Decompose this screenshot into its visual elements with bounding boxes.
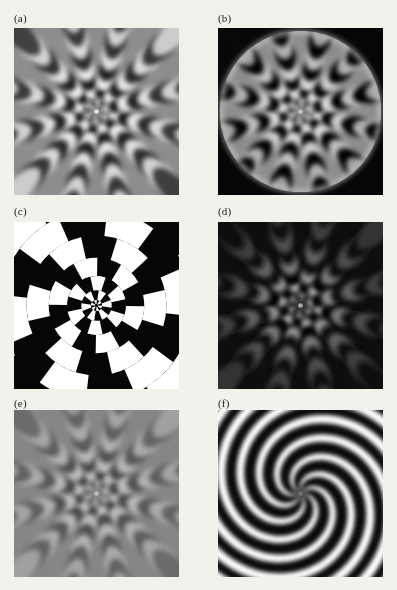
panel-label-f: (f) xyxy=(218,397,230,409)
figure-grid: (a)(b)(c)(d)(e)(f) xyxy=(0,0,397,590)
panel-f: (f) xyxy=(0,0,397,590)
panel-image-f xyxy=(218,410,383,577)
